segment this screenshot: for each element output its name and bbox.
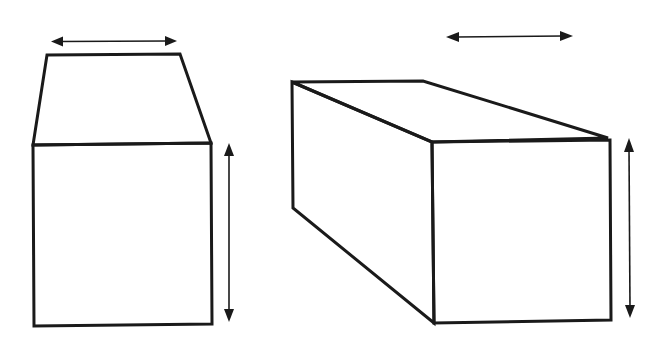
left-figure <box>33 36 234 326</box>
left-front-face <box>33 143 212 326</box>
left-top-face <box>33 54 211 145</box>
left-width-arrow-icon <box>51 36 177 47</box>
right-front-face <box>432 140 611 323</box>
right-top-face <box>292 81 608 142</box>
right-width-arrow-icon <box>446 31 573 42</box>
right-side-face <box>292 82 434 323</box>
left-height-arrow-icon <box>224 143 234 322</box>
right-height-arrow-icon <box>624 138 635 318</box>
right-figure <box>292 31 635 323</box>
diagram-canvas <box>0 0 666 352</box>
